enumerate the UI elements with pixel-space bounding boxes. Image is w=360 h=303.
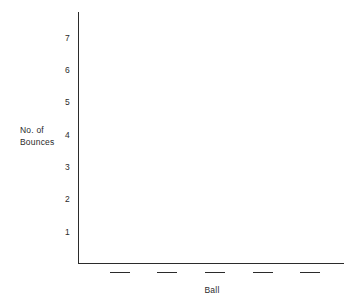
y-tick-label: 3 [30,163,70,172]
y-tick-label: 1 [30,228,70,237]
y-tick-label: 7 [30,34,70,43]
y-axis-title-line-1: No. of [20,124,54,136]
y-tick-label: 6 [30,66,70,75]
x-category-mark [205,272,225,273]
y-tick-label: 5 [30,98,70,107]
x-category-mark [157,272,177,273]
y-axis-title: No. of Bounces [20,124,54,148]
y-axis-title-line-2: Bounces [20,136,54,148]
y-axis-line [78,12,79,264]
chart-container: 7 6 5 4 3 2 1 No. of Bounces Ball [0,0,360,303]
plot-area [79,12,344,262]
x-axis-title: Ball [196,285,228,295]
x-axis-line [78,263,344,264]
x-category-mark [253,272,273,273]
y-tick-label: 2 [30,195,70,204]
x-category-mark [300,272,320,273]
x-category-mark [110,272,130,273]
